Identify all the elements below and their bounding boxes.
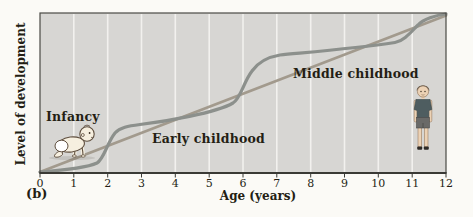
- x-tick-12: 12: [439, 177, 453, 190]
- x-tick-5: 5: [206, 177, 213, 190]
- infant-diaper: [55, 140, 68, 152]
- child-head: [417, 86, 428, 97]
- child-left-eye: [420, 91, 421, 92]
- x-tick-11: 11: [405, 177, 419, 190]
- development-stages-figure: Level of development Infancy Early child…: [0, 0, 473, 217]
- x-tick-10: 10: [371, 177, 385, 190]
- y-axis-label: Level of development: [14, 23, 28, 166]
- x-tick-8: 8: [307, 177, 314, 190]
- annotation-infancy: Infancy: [46, 109, 100, 124]
- x-tick-2: 2: [104, 177, 111, 190]
- x-tick-3: 3: [138, 177, 145, 190]
- annotation-early-childhood: Early childhood: [152, 131, 265, 146]
- child-right-eye: [424, 91, 425, 92]
- figure-panel-label: (b): [26, 186, 47, 201]
- x-axis-label: Age (years): [220, 189, 296, 203]
- child-left-leg: [418, 127, 422, 147]
- infant-rear-hand: [72, 155, 76, 157]
- child-left-shoe: [417, 147, 422, 150]
- child-right-shoe: [424, 147, 429, 150]
- x-tick-4: 4: [172, 177, 179, 190]
- x-tick-9: 9: [341, 177, 348, 190]
- infant-eye: [89, 132, 91, 134]
- annotation-middle-childhood: Middle childhood: [293, 66, 419, 81]
- infant-front-hand: [81, 155, 85, 157]
- child-right-leg: [424, 127, 428, 147]
- x-tick-1: 1: [70, 177, 77, 190]
